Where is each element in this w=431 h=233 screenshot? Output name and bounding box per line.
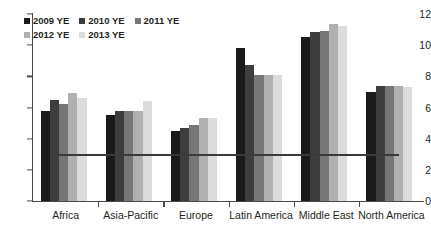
- legend-label: 2010 YE: [88, 16, 124, 26]
- legend-label: 2013 YE: [88, 30, 124, 40]
- x-axis-group-separator: [359, 201, 360, 207]
- bar: [320, 31, 329, 201]
- legend-label: 2012 YE: [33, 30, 69, 40]
- legend-swatch-icon: [79, 32, 85, 38]
- bar: [143, 101, 152, 202]
- x-axis-category-label: Middle East: [299, 210, 354, 222]
- bar: [254, 75, 263, 201]
- bar: [59, 104, 68, 201]
- x-axis-category-label: Latin America: [229, 210, 293, 222]
- bar-chart: 024681012 AfricaAsia-PacificEuropeLatin …: [0, 0, 431, 233]
- bar: [366, 92, 375, 201]
- bar: [236, 48, 245, 201]
- bar: [338, 26, 347, 201]
- y-axis-tick-mark: [27, 45, 32, 46]
- legend-item: 2009 YE: [24, 15, 69, 27]
- y-axis-tick-mark: [27, 138, 32, 139]
- bar: [115, 111, 124, 201]
- x-axis-group-separator: [229, 201, 230, 207]
- bar: [106, 115, 115, 201]
- y-axis-tick-mark: [27, 169, 32, 170]
- x-axis-group-separator: [98, 201, 99, 207]
- bar: [124, 111, 133, 201]
- x-axis-category-label: North America: [358, 210, 425, 222]
- bar: [171, 131, 180, 201]
- bar: [199, 118, 208, 201]
- bar: [50, 100, 59, 201]
- y-axis-tick-mark: [27, 76, 32, 77]
- bar: [41, 111, 50, 201]
- x-axis-group-separator: [163, 201, 164, 207]
- bar: [329, 24, 338, 201]
- bar: [189, 125, 198, 201]
- x-axis-category-label: Europe: [179, 210, 213, 222]
- x-axis-group-separator: [294, 201, 295, 207]
- bar: [310, 32, 319, 201]
- bar: [245, 65, 254, 201]
- legend-swatch-icon: [24, 32, 30, 38]
- plot-area: [33, 14, 424, 201]
- legend-item: 2012 YE: [24, 29, 69, 41]
- legend-item: 2010 YE: [79, 15, 124, 27]
- bar: [180, 128, 189, 201]
- chart-legend: 2009 YE2010 YE2011 YE2012 YE2013 YE: [24, 15, 204, 41]
- legend-item: 2011 YE: [135, 15, 180, 27]
- y-axis-tick-mark: [27, 200, 32, 201]
- legend-swatch-icon: [79, 18, 85, 24]
- legend-swatch-icon: [24, 18, 30, 24]
- bar: [394, 86, 403, 201]
- bar: [385, 86, 394, 201]
- x-axis-category-label: Africa: [52, 210, 79, 222]
- x-axis-category-label: Asia-Pacific: [103, 210, 158, 222]
- legend-item: 2013 YE: [79, 29, 124, 41]
- bar: [264, 75, 273, 201]
- bar: [208, 118, 217, 201]
- bar: [77, 98, 86, 201]
- legend-label: 2009 YE: [33, 16, 69, 26]
- legend-swatch-icon: [135, 18, 141, 24]
- bar: [273, 75, 282, 201]
- bar: [301, 37, 310, 201]
- bar: [376, 86, 385, 201]
- bar: [133, 111, 142, 201]
- legend-label: 2011 YE: [144, 16, 180, 26]
- bar: [68, 93, 77, 201]
- y-axis-tick-mark: [27, 107, 32, 108]
- bar: [403, 87, 412, 201]
- reference-line: [58, 154, 400, 155]
